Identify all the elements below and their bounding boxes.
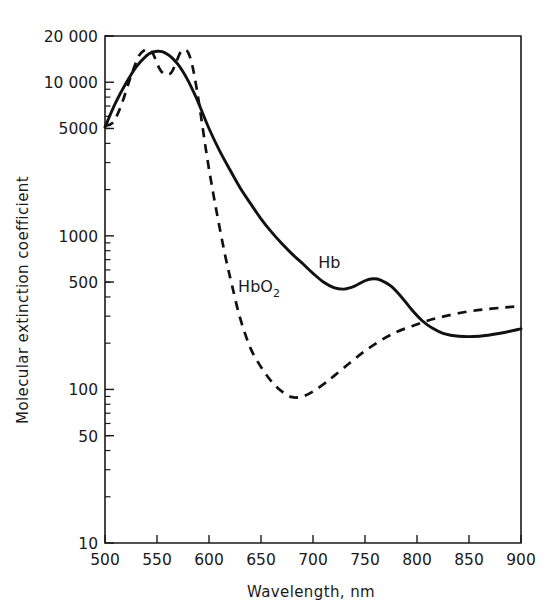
y-tick-label-50: 50 [78, 428, 98, 446]
x-tick-label-500: 500 [90, 551, 120, 569]
x-tick-label-750: 750 [350, 551, 380, 569]
x-tick-label-550: 550 [142, 551, 172, 569]
plot-frame [105, 36, 521, 543]
y-tick-label-20000: 20 000 [44, 28, 98, 46]
y-tick-label-100: 100 [68, 381, 98, 399]
curve-annotations: Hb HbO2 [238, 253, 340, 300]
y-tick-label-5000: 5000 [59, 120, 98, 138]
y-tick-label-10000: 10 000 [44, 74, 98, 92]
series-label-hbo2: HbO2 [238, 277, 280, 300]
chart-figure: 10501005001000500010 00020 000 500550600… [0, 0, 546, 608]
x-tick-label-800: 800 [402, 551, 432, 569]
series-hbo2-line [105, 49, 521, 397]
series-group [105, 49, 521, 397]
hemoglobin-absorption-spectrum-chart: 10501005001000500010 00020 000 500550600… [0, 0, 546, 608]
y-axis-minor-ticks [105, 36, 111, 497]
x-tick-label-850: 850 [454, 551, 484, 569]
series-hb-line [105, 51, 521, 336]
x-tick-label-600: 600 [194, 551, 224, 569]
y-axis-tick-labels: 10501005001000500010 00020 000 [44, 28, 98, 553]
y-tick-label-1000: 1000 [59, 228, 98, 246]
x-axis-title: Wavelength, nm [247, 583, 375, 601]
y-tick-label-500: 500 [68, 274, 98, 292]
y-axis-title: Molecular extinction coefficient [14, 176, 32, 424]
x-axis-tick-labels: 500550600650700750800850900 [90, 551, 536, 569]
x-axis-major-ticks [105, 535, 521, 543]
series-label-hb: Hb [318, 253, 340, 272]
x-tick-label-700: 700 [298, 551, 328, 569]
x-tick-label-650: 650 [246, 551, 276, 569]
x-tick-label-900: 900 [506, 551, 536, 569]
